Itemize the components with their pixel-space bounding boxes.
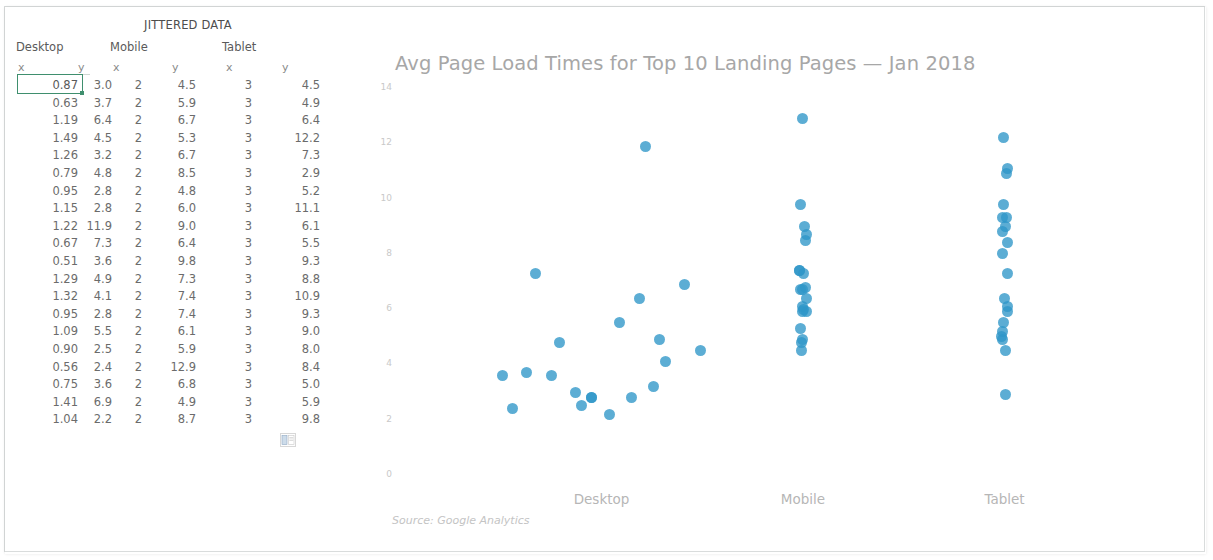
cell-tablet-x[interactable]: 3 <box>234 377 252 391</box>
cell-desktop-y[interactable]: 2.5 <box>84 342 112 356</box>
scatter-point[interactable] <box>695 345 706 356</box>
cell-desktop-y[interactable]: 4.5 <box>84 131 112 145</box>
cell-mobile-y[interactable]: 5.3 <box>162 131 196 145</box>
cell-mobile-y[interactable]: 7.4 <box>162 289 196 303</box>
cell-tablet-y[interactable]: 9.0 <box>286 324 320 338</box>
scatter-point[interactable] <box>800 282 811 293</box>
cell-mobile-y[interactable]: 6.7 <box>162 113 196 127</box>
cell-tablet-x[interactable]: 3 <box>234 395 252 409</box>
cell-tablet-y[interactable]: 4.9 <box>286 96 320 110</box>
table-row[interactable]: 0.633.725.934.9 <box>6 96 358 114</box>
cell-mobile-x[interactable]: 2 <box>124 254 142 268</box>
cell-desktop-y[interactable]: 6.4 <box>84 113 112 127</box>
cell-mobile-y[interactable]: 9.0 <box>162 219 196 233</box>
table-row[interactable]: 1.196.426.736.4 <box>6 113 358 131</box>
cell-mobile-y[interactable]: 4.5 <box>162 78 196 92</box>
cell-desktop-x[interactable]: 1.22 <box>20 219 78 233</box>
scatter-point[interactable] <box>604 409 615 420</box>
cell-mobile-y[interactable]: 6.4 <box>162 236 196 250</box>
paste-options-icon[interactable] <box>280 433 296 447</box>
cell-desktop-y[interactable]: 4.9 <box>84 272 112 286</box>
scatter-point[interactable] <box>576 400 587 411</box>
cell-mobile-x[interactable]: 2 <box>124 236 142 250</box>
cell-desktop-x[interactable]: 1.49 <box>20 131 78 145</box>
cell-mobile-x[interactable]: 2 <box>124 272 142 286</box>
scatter-point[interactable] <box>546 370 557 381</box>
scatter-point[interactable] <box>507 403 518 414</box>
cell-tablet-x[interactable]: 3 <box>234 307 252 321</box>
cell-tablet-y[interactable]: 11.1 <box>286 201 320 215</box>
cell-mobile-y[interactable]: 4.8 <box>162 184 196 198</box>
table-row[interactable]: 0.753.626.835.0 <box>6 377 358 395</box>
cell-mobile-x[interactable]: 2 <box>124 342 142 356</box>
cell-desktop-y[interactable]: 5.5 <box>84 324 112 338</box>
cell-tablet-x[interactable]: 3 <box>234 412 252 426</box>
cell-mobile-x[interactable]: 2 <box>124 148 142 162</box>
cell-desktop-x[interactable]: 1.09 <box>20 324 78 338</box>
table-row[interactable]: 0.952.827.439.3 <box>6 307 358 325</box>
cell-tablet-y[interactable]: 6.1 <box>286 219 320 233</box>
cell-tablet-y[interactable]: 9.8 <box>286 412 320 426</box>
scatter-point[interactable] <box>1002 237 1013 248</box>
cell-desktop-x[interactable]: 0.63 <box>20 96 78 110</box>
scatter-point[interactable] <box>1000 389 1011 400</box>
cell-mobile-y[interactable]: 6.1 <box>162 324 196 338</box>
cell-desktop-x[interactable]: 0.95 <box>20 307 78 321</box>
cell-tablet-x[interactable]: 3 <box>234 272 252 286</box>
scatter-point[interactable] <box>801 229 812 240</box>
table-row[interactable]: 0.562.4212.938.4 <box>6 360 358 378</box>
cell-tablet-y[interactable]: 6.4 <box>286 113 320 127</box>
cell-mobile-y[interactable]: 4.9 <box>162 395 196 409</box>
cell-tablet-y[interactable]: 8.8 <box>286 272 320 286</box>
table-row[interactable]: 1.095.526.139.0 <box>6 324 358 342</box>
cell-desktop-y[interactable]: 3.2 <box>84 148 112 162</box>
cell-desktop-x[interactable]: 0.75 <box>20 377 78 391</box>
cell-desktop-y[interactable]: 3.6 <box>84 254 112 268</box>
cell-mobile-x[interactable]: 2 <box>124 201 142 215</box>
cell-tablet-y[interactable]: 2.9 <box>286 166 320 180</box>
scatter-point[interactable] <box>998 199 1009 210</box>
cell-tablet-x[interactable]: 3 <box>234 324 252 338</box>
cell-mobile-x[interactable]: 2 <box>124 78 142 92</box>
scatter-point[interactable] <box>797 113 808 124</box>
cell-tablet-x[interactable]: 3 <box>234 342 252 356</box>
table-row[interactable]: 1.324.127.4310.9 <box>6 289 358 307</box>
selection-fill-handle[interactable] <box>80 91 84 95</box>
cell-desktop-x[interactable]: 0.90 <box>20 342 78 356</box>
scatter-point[interactable] <box>660 356 671 367</box>
cell-tablet-x[interactable]: 3 <box>234 96 252 110</box>
scatter-point[interactable] <box>521 367 532 378</box>
cell-mobile-x[interactable]: 2 <box>124 395 142 409</box>
cell-desktop-y[interactable]: 2.8 <box>84 307 112 321</box>
cell-tablet-x[interactable]: 3 <box>234 360 252 374</box>
cell-desktop-y[interactable]: 6.9 <box>84 395 112 409</box>
cell-mobile-y[interactable]: 5.9 <box>162 342 196 356</box>
cell-mobile-x[interactable]: 2 <box>124 219 142 233</box>
cell-mobile-x[interactable]: 2 <box>124 324 142 338</box>
cell-mobile-y[interactable]: 5.9 <box>162 96 196 110</box>
cell-tablet-y[interactable]: 9.3 <box>286 254 320 268</box>
cell-mobile-y[interactable]: 12.9 <box>162 360 196 374</box>
cell-desktop-y[interactable]: 2.8 <box>84 201 112 215</box>
cell-tablet-x[interactable]: 3 <box>234 166 252 180</box>
cell-tablet-y[interactable]: 5.5 <box>286 236 320 250</box>
cell-desktop-y[interactable]: 11.9 <box>84 219 112 233</box>
scatter-point[interactable] <box>998 317 1009 328</box>
cell-mobile-x[interactable]: 2 <box>124 307 142 321</box>
scatter-point[interactable] <box>1000 221 1011 232</box>
cell-desktop-x[interactable]: 1.19 <box>20 113 78 127</box>
table-row[interactable]: 1.416.924.935.9 <box>6 395 358 413</box>
selected-cell-outline[interactable] <box>17 74 83 94</box>
cell-desktop-y[interactable]: 4.8 <box>84 166 112 180</box>
cell-mobile-y[interactable]: 7.3 <box>162 272 196 286</box>
cell-mobile-x[interactable]: 2 <box>124 412 142 426</box>
table-row[interactable]: 0.677.326.435.5 <box>6 236 358 254</box>
scatter-point[interactable] <box>554 337 565 348</box>
cell-mobile-x[interactable]: 2 <box>124 96 142 110</box>
cell-desktop-x[interactable]: 1.26 <box>20 148 78 162</box>
scatter-point[interactable] <box>626 392 637 403</box>
cell-desktop-x[interactable]: 0.95 <box>20 184 78 198</box>
scatter-point[interactable] <box>640 141 651 152</box>
scatter-point[interactable] <box>634 293 645 304</box>
cell-tablet-x[interactable]: 3 <box>234 113 252 127</box>
